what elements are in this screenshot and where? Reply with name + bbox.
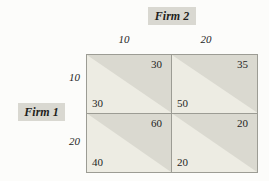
firm2-payoff: 60 bbox=[151, 117, 162, 130]
firm1-payoff: 30 bbox=[92, 97, 103, 110]
firm1-strategy-10-label: 10 bbox=[50, 70, 80, 84]
payoff-grid: 30 30 35 50 60 40 20 20 bbox=[86, 54, 258, 173]
payoff-matrix-figure: Firm 2 10 20 Firm 1 10 20 30 30 35 50 60… bbox=[0, 0, 269, 181]
firm2-strategy-20-label: 20 bbox=[186, 32, 226, 46]
payoff-cell-r10-c20: 35 50 bbox=[172, 55, 257, 114]
firm1-payoff: 40 bbox=[92, 156, 103, 169]
firm1-strategy-20-label: 20 bbox=[50, 134, 80, 148]
firm2-payoff: 20 bbox=[237, 117, 248, 130]
payoff-cell-r20-c10: 60 40 bbox=[87, 114, 172, 173]
payoff-cell-r20-c20: 20 20 bbox=[172, 114, 257, 173]
firm2-payoff: 30 bbox=[151, 58, 162, 71]
firm2-label: Firm 2 bbox=[148, 7, 196, 25]
firm1-label: Firm 1 bbox=[18, 103, 65, 121]
firm1-payoff: 50 bbox=[177, 97, 188, 110]
firm1-payoff: 20 bbox=[177, 156, 188, 169]
firm2-payoff: 35 bbox=[237, 58, 248, 71]
payoff-cell-r10-c10: 30 30 bbox=[87, 55, 172, 114]
firm2-strategy-10-label: 10 bbox=[104, 32, 144, 46]
